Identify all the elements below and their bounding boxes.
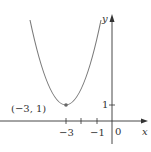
x-axis-label: x <box>142 126 148 137</box>
vertex-point <box>64 103 68 107</box>
vertex-label: (−3, 1) <box>11 103 46 114</box>
y-axis-label: y <box>101 13 108 24</box>
x-tick-label-neg3: −3 <box>59 127 74 138</box>
y-tick-label-1: 1 <box>102 99 108 110</box>
parabola-curve <box>30 20 101 105</box>
origin-label: 0 <box>115 126 121 137</box>
x-tick-label-neg1: −1 <box>90 127 105 138</box>
y-axis-arrow-icon <box>110 14 115 22</box>
x-axis-arrow-icon <box>141 119 148 124</box>
graph: (−3, 1) −3 −1 0 x 1 y <box>0 0 151 152</box>
